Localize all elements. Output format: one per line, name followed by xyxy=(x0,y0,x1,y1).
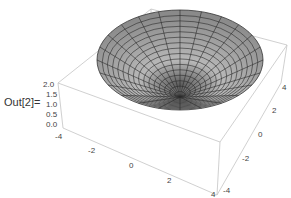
svg-text:-4: -4 xyxy=(223,186,231,195)
svg-text:4: 4 xyxy=(282,83,287,92)
svg-text:-4: -4 xyxy=(55,132,63,141)
svg-text:2: 2 xyxy=(167,176,172,185)
surface-plot-3d[interactable]: 2.0 1.5 1.0 0.5 0.0 -4 -2 0 2 4 -4 -2 0 … xyxy=(0,0,291,198)
svg-text:0: 0 xyxy=(129,161,134,170)
cone-surface xyxy=(97,10,263,110)
svg-text:0: 0 xyxy=(258,130,263,139)
svg-text:0.5: 0.5 xyxy=(46,110,58,119)
svg-text:1.5: 1.5 xyxy=(46,90,58,99)
svg-text:2.0: 2.0 xyxy=(43,80,55,89)
svg-text:1.0: 1.0 xyxy=(46,100,58,109)
x-axis-labels: -4 -2 0 2 4 xyxy=(55,132,216,198)
svg-text:2: 2 xyxy=(272,106,277,115)
svg-text:4: 4 xyxy=(211,190,216,198)
svg-text:0.0: 0.0 xyxy=(46,120,58,129)
svg-text:-2: -2 xyxy=(242,154,250,163)
svg-text:-2: -2 xyxy=(88,146,96,155)
z-axis-labels: 2.0 1.5 1.0 0.5 0.0 xyxy=(43,80,58,129)
y-axis-labels: -4 -2 0 2 4 xyxy=(223,83,287,195)
